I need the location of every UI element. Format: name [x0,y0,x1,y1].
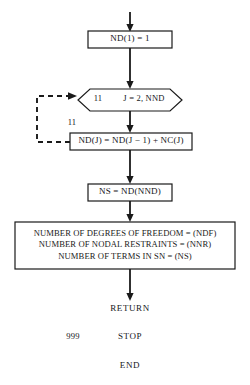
entry-arrow [126,12,133,32]
process-text-init-nd: ND(1) = 1 [88,33,172,43]
loop-statement-label: 11 [86,93,110,103]
init-to-loop-arrow [126,48,133,89]
loop-to-assign-arrow [126,111,133,133]
assign-to-ns-arrow [126,150,133,184]
output-box-text: NUMBER OF DEGREES OF FREEDOM = (NDF) NUM… [15,228,235,262]
loop-range-text: J = 2, NND [112,93,176,103]
return-statement: RETURN [90,303,170,313]
output-line-3: NUMBER OF TERMS IN SN = (NS) [15,251,235,262]
output-to-return-arrow [126,269,133,301]
stop-statement-label: 999 [60,331,86,341]
ns-to-output-arrow [126,201,133,222]
process-text-ns: NS = ND(NND) [88,186,172,196]
statement-number-label: 11 [62,117,82,127]
stop-statement: STOP [100,331,160,341]
output-line-2: NUMBER OF NODAL RESTRAINTS = (NNR) [15,239,235,250]
end-statement: END [100,360,160,370]
process-text-assign-nd: ND(J) = ND(J − 1) + NC(J) [71,135,191,145]
output-line-1: NUMBER OF DEGREES OF FREEDOM = (NDF) [15,228,235,239]
